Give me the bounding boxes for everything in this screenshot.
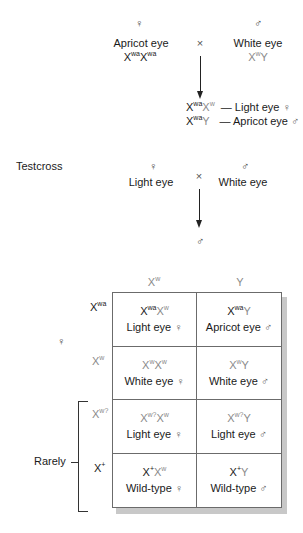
allele-sup: w <box>210 100 215 107</box>
cell-genotype: XwY <box>229 359 249 371</box>
cell-phenotype: White eye ♀ <box>124 375 184 387</box>
allele-x: X <box>140 51 147 63</box>
allele-sup: w <box>99 354 104 361</box>
testcross-female-phenotype: Light eye <box>129 176 174 188</box>
allele-sup: w <box>155 275 160 282</box>
allele-y: Y <box>243 305 250 317</box>
cross1-male-phenotype: White eye <box>234 37 283 49</box>
allele-y: Y <box>242 359 249 371</box>
allele-y: Y <box>243 412 250 424</box>
phenotype-text: White eye <box>209 375 258 387</box>
rarely-bracket-dash <box>71 462 78 463</box>
allele-y: Y <box>202 115 209 127</box>
cell-phenotype: Light eye ♂ <box>211 428 267 440</box>
punnett-cell: XwY White eye ♂ <box>197 347 281 401</box>
cell-genotype: X+Y <box>230 466 249 478</box>
phenotype-text: Light eye <box>127 428 172 440</box>
phenotype-text: Apricot eye <box>206 321 261 333</box>
punnett-cell: XwaY Apricot eye ♂ <box>197 293 281 347</box>
cell-phenotype: Wild-type ♂ <box>210 482 267 494</box>
punnett-cell: XwXw White eye ♀ <box>113 347 197 401</box>
cross1-female-phenotype: Apricot eye <box>113 37 168 49</box>
male-symbol: ♂ <box>264 321 272 333</box>
punnett-female-symbol: ♀ <box>57 335 65 347</box>
cross1-female-genotype: XwaXwa <box>124 51 157 63</box>
rarely-bracket <box>78 401 88 512</box>
allele-sup: w <box>161 465 166 472</box>
male-symbol: ♂ <box>261 375 269 387</box>
cross1-arrow-shaft <box>200 56 201 92</box>
male-symbol: ♂ <box>291 115 299 127</box>
cell-phenotype: Apricot eye ♂ <box>206 321 272 333</box>
punnett-square: XwaXw Light eye ♀ XwaY Apricot eye ♂ XwX… <box>112 292 282 508</box>
row-header-xw: Xw <box>92 355 104 367</box>
cross1-arrow-head-icon <box>197 91 203 99</box>
punnett-cell: XwaXw Light eye ♀ <box>113 293 197 347</box>
testcross-male-symbol: ♂ <box>241 160 249 172</box>
cross1-cross-symbol: × <box>197 37 203 49</box>
testcross-female-symbol: ♀ <box>149 160 157 172</box>
allele-sup: wa <box>97 300 106 307</box>
phenotype-text: Wild-type <box>126 482 172 494</box>
allele-x: X <box>227 305 234 317</box>
punnett-cell: X+Xw Wild-type ♀ <box>113 454 197 508</box>
punnett-cell: Xw?Y Light eye ♂ <box>197 400 281 454</box>
allele-sup: + <box>101 461 105 468</box>
allele-x: X <box>155 359 162 371</box>
punnett-cell: Xw?Xw Light eye ♀ <box>113 400 197 454</box>
allele-y: Y <box>241 466 248 478</box>
allele-sup: wa <box>193 114 202 121</box>
phenotype-text: White eye <box>124 375 173 387</box>
cross1-female-symbol: ♀ <box>135 17 143 29</box>
cross1-offspring-2: XwaY — Apricot eye ♂ <box>186 115 299 127</box>
phenotype-text: Light eye <box>211 428 256 440</box>
allele-sup: wa <box>193 100 202 107</box>
female-symbol: ♀ <box>175 482 183 494</box>
cell-genotype: XwaY <box>227 305 251 317</box>
dash: — <box>220 115 231 127</box>
testcross-cross-symbol: × <box>196 170 202 182</box>
rarely-label: Rarely <box>34 455 66 467</box>
row-header-xplus: X+ <box>94 462 105 474</box>
testcross-result-male-symbol: ♂ <box>196 235 204 247</box>
allele-sup2: a <box>152 50 156 57</box>
allele-x: X <box>143 466 150 478</box>
female-symbol: ♀ <box>174 428 182 440</box>
cross1-offspring-1: XwaXw — Light eye ♀ <box>186 101 291 113</box>
cell-phenotype: Light eye ♀ <box>127 321 183 333</box>
column-header-xw: Xw <box>148 276 160 288</box>
allele-x: X <box>230 466 237 478</box>
female-symbol: ♀ <box>176 375 184 387</box>
allele-x: X <box>156 305 163 317</box>
phenotype-text: Wild-type <box>210 482 256 494</box>
testcross-arrow-shaft <box>199 189 200 221</box>
cell-genotype: Xw?Y <box>227 412 251 424</box>
cell-phenotype: White eye ♂ <box>209 375 269 387</box>
allele-sup: w <box>162 358 167 365</box>
cell-genotype: XwaXw <box>140 305 169 317</box>
cell-genotype: X+Xw <box>143 466 167 478</box>
male-symbol: ♂ <box>259 482 267 494</box>
allele-x: X <box>227 412 234 424</box>
phenotype-text: Light eye <box>127 321 172 333</box>
row-header-xwa: Xwa <box>90 301 106 313</box>
testcross-label: Testcross <box>16 160 62 172</box>
testcross-arrow-head-icon <box>196 220 202 228</box>
cell-genotype: Xw?Xw <box>140 412 169 424</box>
offspring-phenotype: Light eye <box>235 101 280 113</box>
allele-sup: w? <box>99 407 108 414</box>
allele-sup: w <box>164 411 169 418</box>
dash: — <box>221 101 232 113</box>
cell-genotype: XwXw <box>142 359 167 371</box>
cell-phenotype: Wild-type ♀ <box>126 482 183 494</box>
allele-y: Y <box>261 51 268 63</box>
allele-x: X <box>202 101 209 113</box>
cross1-male-genotype: XwY <box>248 51 268 63</box>
top-fragment <box>196 0 199 4</box>
column-header-y: Y <box>236 276 243 288</box>
allele-sup: w <box>164 304 169 311</box>
cell-phenotype: Light eye ♀ <box>127 428 183 440</box>
offspring-phenotype: Apricot eye <box>233 115 288 127</box>
testcross-male-phenotype: White eye <box>219 176 268 188</box>
punnett-cell: X+Y Wild-type ♂ <box>197 454 281 508</box>
